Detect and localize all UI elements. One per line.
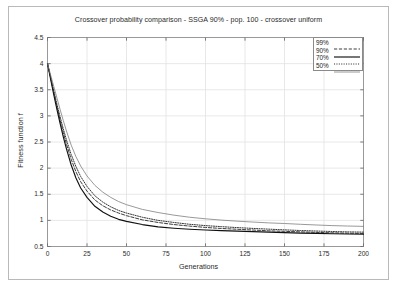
legend-label: 99% — [316, 39, 332, 47]
legend-label: 50% — [316, 62, 332, 70]
y-tick-label: 4 — [18, 60, 44, 67]
x-tick-label: 175 — [311, 250, 337, 257]
y-axis-label: Fitness function f — [16, 91, 25, 191]
x-tick-label: 200 — [351, 250, 377, 257]
chart-figure: Crossover probability comparison - SSGA … — [0, 0, 397, 294]
legend-item-50: 50% — [316, 62, 361, 70]
legend-item-90: 90% — [316, 47, 361, 55]
x-tick-label: 75 — [153, 250, 179, 257]
legend-label: 70% — [316, 54, 332, 62]
x-axis-label: Generations — [0, 262, 397, 271]
x-tick-label: 150 — [272, 250, 298, 257]
legend-line-sample — [333, 39, 361, 47]
legend-item-99: 99% — [316, 39, 361, 47]
x-tick-label: 125 — [232, 250, 258, 257]
y-tick-label: 0.5 — [18, 243, 44, 250]
legend-line-sample — [333, 62, 361, 70]
legend-line-sample — [333, 47, 361, 55]
y-tick-label: 4.5 — [18, 34, 44, 41]
legend-label: 90% — [316, 47, 332, 55]
x-tick-label: 0 — [35, 250, 61, 257]
x-tick-label: 50 — [114, 250, 140, 257]
y-tick-label: 1.5 — [18, 190, 44, 197]
legend-line-sample — [333, 54, 361, 62]
x-tick-label: 100 — [193, 250, 219, 257]
legend-item-70: 70% — [316, 54, 361, 62]
x-tick-label: 25 — [74, 250, 100, 257]
legend: 99%90%70%50% — [313, 37, 363, 71]
y-tick-label: 1 — [18, 216, 44, 223]
